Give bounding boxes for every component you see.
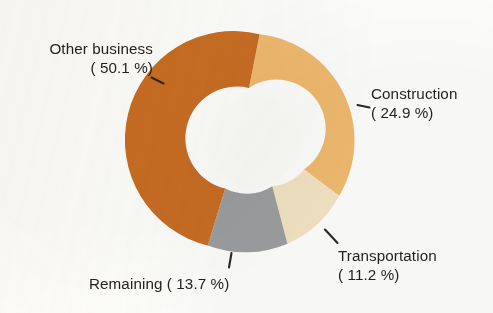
slice-label-other-business-value: ( 50.1 %) bbox=[33, 58, 153, 77]
slice-label-other-business-name: Other business bbox=[49, 40, 153, 57]
slice-label-construction-value: ( 24.9 %) bbox=[371, 103, 457, 122]
leader-line-construction bbox=[358, 105, 370, 108]
slice-label-remaining-name: Remaining ( 13.7 %) bbox=[89, 275, 229, 292]
slice-label-construction-name: Construction bbox=[371, 85, 457, 102]
donut-hole bbox=[208, 95, 300, 187]
leader-line-remaining bbox=[229, 253, 232, 268]
slice-label-transportation: Transportation ( 11.2 %) bbox=[338, 246, 437, 284]
slice-label-construction: Construction ( 24.9 %) bbox=[371, 84, 457, 122]
donut-chart-figure: Other business ( 50.1 %) Construction ( … bbox=[0, 0, 493, 313]
slice-label-transportation-value: ( 11.2 %) bbox=[338, 265, 437, 284]
slice-label-remaining: Remaining ( 13.7 %) bbox=[89, 274, 229, 293]
slice-label-transportation-name: Transportation bbox=[338, 247, 437, 264]
leader-line-transportation bbox=[325, 230, 338, 244]
slice-label-other-business: Other business ( 50.1 %) bbox=[33, 39, 153, 77]
